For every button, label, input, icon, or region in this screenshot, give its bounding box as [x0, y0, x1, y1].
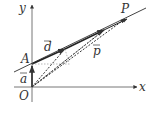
point-A-label: A	[20, 52, 30, 66]
point-P-label: P	[120, 2, 130, 16]
vector-diagram: y x O A P a d p	[0, 0, 157, 114]
vector-p-label: p	[93, 44, 101, 58]
vector-d-label: d	[44, 40, 52, 54]
vector-a-label: a	[20, 72, 27, 86]
x-axis-label: x	[139, 80, 146, 94]
y-axis-label: y	[18, 1, 26, 15]
origin-label: O	[19, 89, 29, 103]
